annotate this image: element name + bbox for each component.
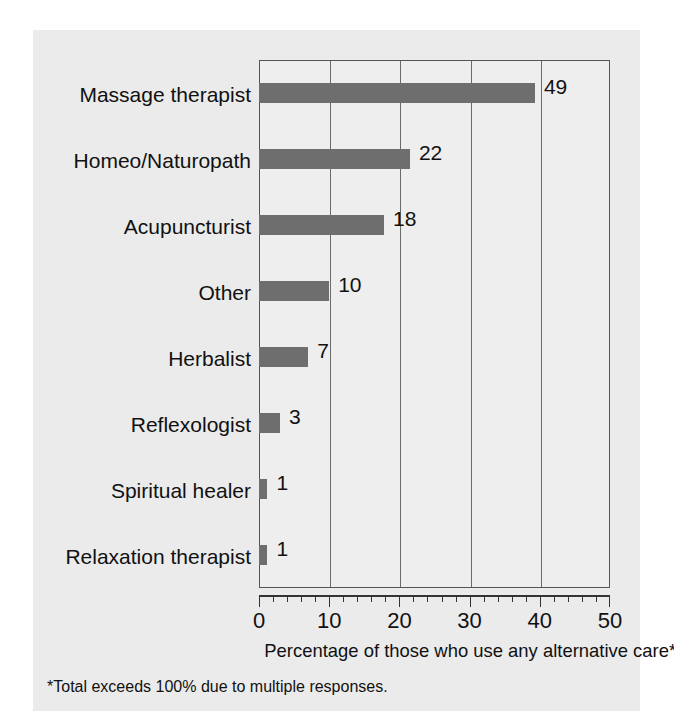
bar-value-label: 1 (276, 538, 288, 559)
bar-other (259, 281, 329, 301)
bar-row: 18 (259, 192, 610, 258)
minor-tick (413, 595, 414, 602)
minor-tick (273, 595, 274, 602)
minor-tick (287, 595, 288, 602)
category-label: Spiritual healer (40, 480, 251, 501)
minor-tick (512, 595, 513, 602)
category-label: Other (40, 282, 251, 303)
minor-tick (498, 595, 499, 602)
minor-tick (456, 595, 457, 602)
category-label: Relaxation therapist (40, 546, 251, 567)
bar-value-label: 22 (419, 142, 442, 163)
major-tick-30 (470, 595, 471, 607)
bar-row: 49 (259, 60, 610, 126)
minor-tick (343, 595, 344, 602)
minor-tick (301, 595, 302, 602)
x-tick-label: 40 (528, 610, 552, 632)
category-label: Reflexologist (40, 414, 251, 435)
bar-acupuncturist (259, 215, 384, 235)
major-tick-0 (259, 595, 260, 607)
bars-layer: 492218107311 (259, 60, 610, 588)
bar-row: 7 (259, 324, 610, 390)
x-tick-label: 30 (457, 610, 481, 632)
minor-tick (554, 595, 555, 602)
bar-homeo-naturopath (259, 149, 410, 169)
axis-title: Percentage of those who use any alternat… (264, 641, 604, 660)
major-tick-10 (329, 595, 330, 607)
major-tick-50 (609, 595, 610, 607)
bar-herbalist (259, 347, 308, 367)
bar-row: 10 (259, 258, 610, 324)
minor-tick (568, 595, 569, 602)
x-tick-label: 0 (253, 610, 265, 632)
minor-tick (484, 595, 485, 602)
axis-line (259, 595, 610, 597)
category-label: Acupuncturist (40, 216, 251, 237)
category-axis-labels: Massage therapistHomeo/NaturopathAcupunc… (40, 60, 251, 588)
minor-tick (371, 595, 372, 602)
footnote: *Total exceeds 100% due to multiple resp… (47, 679, 388, 695)
x-tick-label: 10 (317, 610, 341, 632)
category-label: Homeo/Naturopath (40, 150, 251, 171)
major-tick-20 (399, 595, 400, 607)
bar-massage-therapist (259, 83, 535, 103)
bar-reflexologist (259, 413, 280, 433)
category-label: Massage therapist (40, 84, 251, 105)
bar-value-label: 10 (338, 274, 361, 295)
minor-tick (427, 595, 428, 602)
bar-row: 3 (259, 390, 610, 456)
bar-value-label: 7 (317, 340, 329, 361)
bar-value-label: 49 (544, 76, 567, 97)
bar-row: 22 (259, 126, 610, 192)
chart-page: Massage therapistHomeo/NaturopathAcupunc… (0, 0, 674, 726)
bar-value-label: 1 (276, 472, 288, 493)
x-tick-label: 50 (598, 610, 622, 632)
value-axis (259, 595, 610, 607)
bar-spiritual-healer (259, 479, 267, 499)
x-tick-label: 20 (387, 610, 411, 632)
minor-tick (315, 595, 316, 602)
minor-tick (442, 595, 443, 602)
bar-value-label: 3 (289, 406, 301, 427)
minor-tick (582, 595, 583, 602)
minor-tick (357, 595, 358, 602)
bar-row: 1 (259, 522, 610, 588)
bar-value-label: 18 (393, 208, 416, 229)
major-tick-40 (540, 595, 541, 607)
bar-relaxation-therapist (259, 545, 267, 565)
category-label: Herbalist (40, 348, 251, 369)
minor-tick (596, 595, 597, 602)
minor-tick (526, 595, 527, 602)
bar-row: 1 (259, 456, 610, 522)
minor-tick (385, 595, 386, 602)
